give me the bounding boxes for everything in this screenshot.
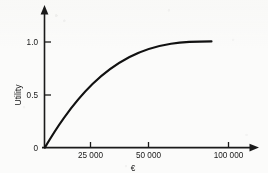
x-tick-label-50000: 50 000 [136, 151, 161, 160]
figure-container: 1.0 0.5 0 25 000 50 000 100 000 € Utilit… [0, 0, 268, 173]
y-axis-title: Utility [13, 84, 23, 106]
x-axis-arrow-icon [250, 144, 260, 152]
x-tick-label-100000: 100 000 [214, 151, 244, 160]
y-axis-arrow-icon [41, 5, 49, 15]
x-tick-label-25000: 25 000 [78, 151, 103, 160]
utility-curve [45, 41, 212, 147]
y-tick-label-0point5: 0.5 [27, 91, 39, 100]
y-axis-ticks [45, 42, 52, 95]
x-axis-ticks [91, 142, 229, 148]
y-axis [41, 5, 49, 148]
y-tick-label-0: 0 [33, 144, 38, 153]
y-tick-label-1: 1.0 [27, 38, 39, 47]
x-axis-title: € [131, 164, 136, 173]
data-series-utility [45, 41, 212, 147]
utility-chart: 1.0 0.5 0 25 000 50 000 100 000 € Utilit… [0, 0, 268, 173]
